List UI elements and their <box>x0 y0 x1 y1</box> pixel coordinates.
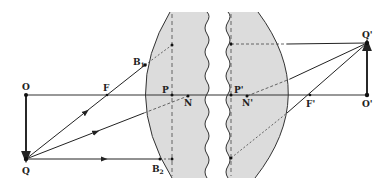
ray-nodal-outgoing <box>290 43 367 79</box>
point-Q-prime <box>365 41 369 45</box>
point-P-top <box>171 44 174 47</box>
point-P-prime-top <box>230 43 233 46</box>
ray-through-front-focus <box>26 65 145 159</box>
point-F <box>106 94 109 97</box>
label-Q: Q <box>22 166 30 176</box>
point-P <box>171 94 174 97</box>
thick-lens-ray-diagram: O Q F B1 B2 P N P' N' F' O' Q' <box>0 0 391 184</box>
point-F-prime <box>309 94 312 97</box>
ray-1-exit-parallel <box>287 43 367 44</box>
point-P-bottom <box>171 158 174 161</box>
point-P-prime <box>230 94 233 97</box>
point-B2 <box>159 158 162 161</box>
label-P-prime: P' <box>234 85 244 95</box>
point-O <box>24 93 28 97</box>
label-Q-prime: Q' <box>362 30 373 40</box>
ray-nodal-incoming <box>26 113 144 159</box>
label-O-prime: O' <box>362 99 373 109</box>
label-B2: B2 <box>152 164 164 175</box>
label-N-prime: N' <box>242 98 253 108</box>
label-B1: B1 <box>133 57 145 68</box>
point-O-prime <box>365 93 369 97</box>
point-Q <box>24 157 28 161</box>
ray-through-back-focus <box>287 43 367 113</box>
label-F-prime: F' <box>306 99 315 109</box>
label-N: N <box>184 98 192 108</box>
point-P-prime-bottom <box>230 157 233 160</box>
label-O: O <box>22 82 30 92</box>
label-P: P <box>162 85 169 95</box>
label-F: F <box>103 83 110 93</box>
